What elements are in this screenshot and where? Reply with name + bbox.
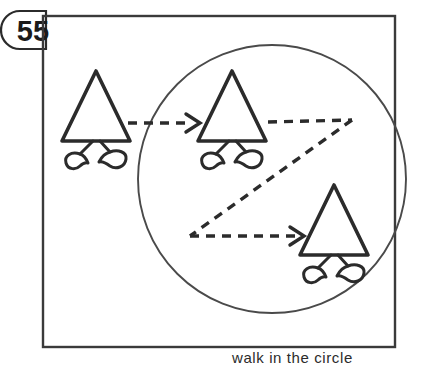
figure-page: 55 — [0, 0, 431, 365]
triangle-person-start — [62, 71, 130, 169]
triangle-person-end — [300, 185, 368, 283]
right-foot — [99, 151, 126, 168]
left-foot — [66, 153, 88, 169]
arrow-enter-circle — [128, 114, 200, 132]
left-leg — [80, 141, 93, 154]
left-foot — [202, 153, 224, 169]
triangle-body — [62, 71, 130, 141]
figure-canvas: 55 — [0, 0, 431, 365]
triangle-body — [300, 185, 368, 255]
triangle-person-entering — [198, 71, 266, 169]
left-foot — [304, 267, 326, 283]
badge-number: 55 — [17, 15, 49, 47]
arrow-enter-circle-head — [186, 114, 200, 132]
left-leg — [216, 141, 229, 154]
figure-caption: walk in the circle — [232, 349, 431, 365]
right-foot — [337, 265, 364, 282]
left-leg — [318, 255, 331, 268]
right-foot — [235, 151, 262, 168]
zigzag-path — [190, 120, 352, 245]
triangle-body — [198, 71, 266, 141]
zigzag-top-segment — [268, 120, 352, 122]
zigzag-diagonal-segment — [190, 120, 352, 236]
